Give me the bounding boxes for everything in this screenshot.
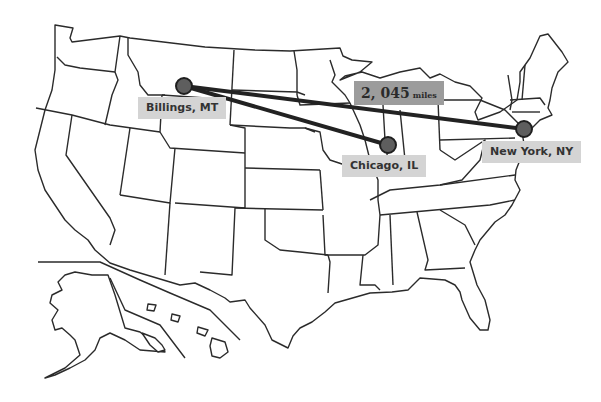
hawaii-4 [210,338,228,358]
hawaii-2 [171,314,180,322]
distance-badge: 2, 045miles [354,81,444,105]
label-chicago: Chicago, IL [342,155,426,177]
marker-chicago[interactable] [380,137,396,153]
distance-value: 2, 045 [361,85,410,101]
us-map [0,0,601,402]
hawaii-3 [197,327,208,336]
distance-unit: miles [413,90,437,100]
label-chicago-text: Chicago, IL [350,159,418,172]
marker-billings[interactable] [176,78,192,94]
label-billings: Billings, MT [138,97,226,119]
label-newyork-text: New York, NY [490,145,573,158]
hawaii-1 [147,304,156,311]
label-newyork: New York, NY [482,141,581,163]
label-billings-text: Billings, MT [146,101,218,114]
alaska [45,272,165,378]
marker-newyork[interactable] [516,121,532,137]
